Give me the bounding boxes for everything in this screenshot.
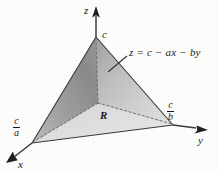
y-intercept-denominator: b: [167, 112, 174, 122]
x-intercept-label: c a: [13, 116, 20, 138]
region-label: R: [100, 110, 107, 121]
x-axis-label: x: [18, 159, 23, 170]
z-intercept-label: c: [102, 29, 107, 40]
z-axis-label: z: [84, 5, 88, 16]
x-intercept-denominator: a: [13, 128, 20, 138]
y-intercept-label: c b: [167, 100, 174, 122]
surface-equation-label: z = c − ax − by: [129, 47, 201, 58]
y-intercept-numerator: c: [167, 100, 174, 110]
x-intercept-numerator: c: [13, 116, 20, 126]
y-axis-label: y: [198, 135, 203, 146]
y-axis: [173, 125, 208, 134]
figure-canvas: [0, 0, 217, 172]
tetrahedron-figure: z c c a x c b y R z = c − ax − by: [0, 0, 217, 172]
z-axis: [92, 6, 100, 37]
